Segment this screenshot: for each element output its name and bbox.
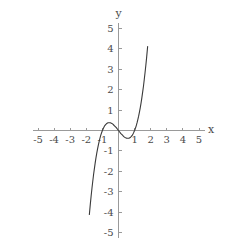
cubic-function-plot: -5-4-3-2-112345 -5-4-3-2-112345 x y <box>0 0 237 250</box>
x-tick-label: 4 <box>180 134 186 145</box>
x-tick-label: -5 <box>33 134 43 145</box>
plot-canvas: -5-4-3-2-112345 -5-4-3-2-112345 x y <box>0 0 237 250</box>
y-tick-label: -1 <box>104 145 114 156</box>
x-tick-label: -3 <box>65 134 75 145</box>
y-tick-label: -3 <box>104 186 114 197</box>
x-axis-label: x <box>208 123 215 136</box>
y-tick-label: -4 <box>104 207 114 218</box>
x-tick-label: 5 <box>196 134 202 145</box>
y-tick-label: -5 <box>104 227 114 238</box>
axes-group <box>33 23 205 238</box>
y-tick-label: 3 <box>107 64 113 75</box>
y-tick-label: 5 <box>107 23 113 34</box>
y-tick-label: 2 <box>107 84 113 95</box>
x-tick-label: -2 <box>81 134 91 145</box>
y-tick-label: 1 <box>107 105 113 116</box>
x-tick-label: -4 <box>49 134 59 145</box>
x-axis-tick-labels: -5-4-3-2-112345 <box>33 134 202 145</box>
y-tick-label: -2 <box>104 166 114 177</box>
x-tick-label: 2 <box>148 134 154 145</box>
x-tick-label: 3 <box>164 134 170 145</box>
y-tick-label: 4 <box>107 43 113 54</box>
y-axis-label: y <box>114 7 122 20</box>
